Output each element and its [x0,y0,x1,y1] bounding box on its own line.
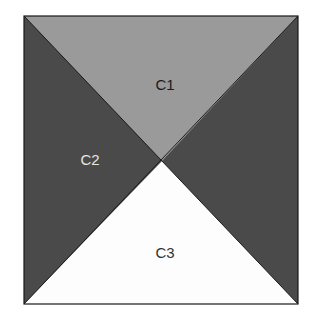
label-c2: C2 [80,151,99,168]
label-c3: C3 [155,244,174,261]
partition-diagram: C1 C2 C3 [0,0,314,324]
label-c1: C1 [155,76,174,93]
